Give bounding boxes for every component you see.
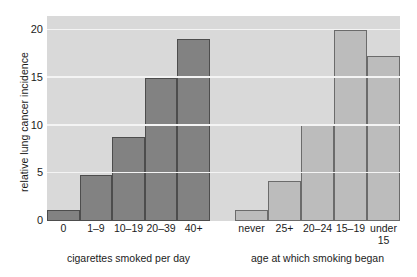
y-tick-label: 20 [21,23,43,35]
bar [268,181,301,221]
y-axis-tick-labels: 05101520 [21,0,43,277]
bar [367,56,400,221]
y-tick-label: 15 [21,71,43,83]
gridline [47,124,400,126]
bar [235,210,268,221]
plot-area [47,16,400,221]
bar [334,30,367,221]
x-axis-title-right: age at which smoking began [235,252,400,264]
y-tick-label: 5 [21,166,43,178]
x-tick-label: 40+ [169,223,218,235]
panel-cigarettes-smoked-per-day [47,16,210,221]
x-tick-label: under 15 [359,223,408,246]
bar [112,137,145,221]
gridline [47,172,400,174]
bar [80,175,113,221]
y-tick-label: 10 [21,119,43,131]
bar [177,39,210,221]
x-axis-title-left: cigarettes smoked per day [47,252,210,264]
panel-age-at-which-smoking-began [235,16,400,221]
chart-figure: relative lung cancer incidence 05101520 … [0,0,417,277]
bar [47,210,80,221]
bar [145,78,178,221]
gridline [47,76,400,78]
gridline [47,29,400,31]
